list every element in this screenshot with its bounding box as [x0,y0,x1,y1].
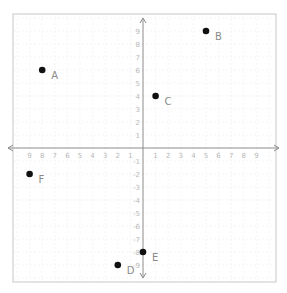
y-tick-label: -7 [133,236,140,244]
y-tick-label: -4 [133,197,141,205]
point-marker-icon [26,171,33,178]
point-marker-icon [39,67,46,74]
point-marker-icon [203,28,210,35]
point-marker-icon [140,249,147,256]
x-tick-label: 6 [216,152,221,160]
x-tick-label: 7 [229,152,233,160]
point-label: F [39,174,45,185]
x-tick-label: 9 [254,152,258,160]
point-label: A [51,70,58,81]
y-tick-label: -1 [133,158,140,166]
point-label: E [152,252,158,263]
x-tick-label: 8 [40,152,44,160]
x-tick-label: 5 [78,152,82,160]
y-tick-label: 8 [136,41,140,49]
y-tick-label: -2 [133,171,140,179]
y-tick-label: -5 [133,210,140,218]
y-tick-label: 2 [136,119,140,127]
y-tick-label: 3 [136,106,140,114]
x-tick-label: 1 [128,152,132,160]
y-tick-label: -6 [133,223,141,231]
y-tick-label: -8 [133,249,140,257]
x-tick-label: 2 [166,152,170,160]
point-label: C [165,96,172,107]
y-tick-label: 5 [136,80,140,88]
y-tick-label: 7 [136,54,140,62]
x-tick-label: 3 [103,152,107,160]
y-tick-label: -3 [133,184,140,192]
x-tick-label: 1 [153,152,157,160]
y-tick-label: 1 [136,132,140,140]
x-tick-label: 6 [65,152,70,160]
y-tick-label: 4 [136,93,141,101]
x-tick-label: 3 [179,152,183,160]
x-tick-label: 2 [116,152,120,160]
x-tick-label: 8 [242,152,246,160]
point-label: D [127,265,135,276]
x-tick-label: 4 [90,152,95,160]
coordinate-plane: 987654321123456789123456789-1-2-3-4-5-6-… [0,0,287,293]
point-label: B [215,31,222,42]
y-tick-label: 9 [136,28,140,36]
point-marker-icon [115,262,122,269]
x-tick-label: 7 [53,152,57,160]
x-tick-label: 4 [191,152,196,160]
x-tick-label: 5 [204,152,208,160]
y-tick-label: 6 [136,67,141,75]
point-marker-icon [152,93,159,100]
x-tick-label: 9 [27,152,31,160]
